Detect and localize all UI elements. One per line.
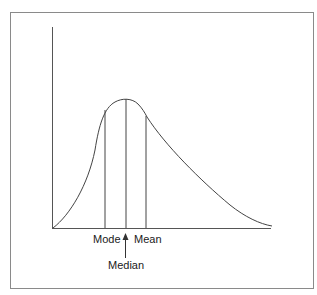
median-arrow-head-icon: [123, 233, 129, 240]
mean-label: Mean: [134, 233, 162, 245]
mode-label: Mode: [93, 233, 121, 245]
skewed-distribution-diagram: [0, 0, 317, 295]
distribution-curve: [53, 99, 272, 228]
median-label: Median: [108, 259, 144, 271]
diagram-frame: [11, 13, 314, 289]
